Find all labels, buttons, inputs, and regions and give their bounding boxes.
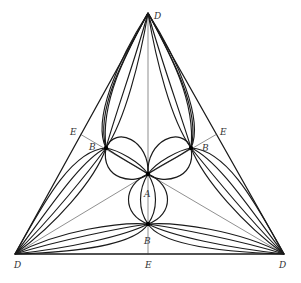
label-d-top: D xyxy=(153,11,161,21)
node-b-left xyxy=(104,146,108,150)
outer-triangle xyxy=(15,13,284,254)
lobes-around-a xyxy=(105,137,191,224)
label-e-left: E xyxy=(69,127,77,137)
label-a: A xyxy=(143,189,151,199)
curves-top-to-left-b xyxy=(102,13,148,148)
curves-right-to-bottom-b xyxy=(148,224,284,254)
label-e-right: E xyxy=(219,127,227,137)
curves-right-to-right-b xyxy=(191,148,284,254)
label-e-bottom: E xyxy=(144,260,152,270)
node-a xyxy=(146,172,150,176)
label-b-bottom: B xyxy=(143,236,151,246)
label-d-left: D xyxy=(13,260,21,270)
label-d-right: D xyxy=(278,260,286,270)
nodes xyxy=(104,146,193,226)
node-b-bottom xyxy=(146,222,150,226)
triangle-flow-diagram: D D D E E E B B B A xyxy=(0,0,301,283)
curves-left-to-left-b xyxy=(15,148,106,254)
label-b-left: B xyxy=(88,142,96,152)
node-b-right xyxy=(189,146,193,150)
label-b-right: B xyxy=(201,143,209,153)
curves-top-to-right-b xyxy=(148,13,194,148)
